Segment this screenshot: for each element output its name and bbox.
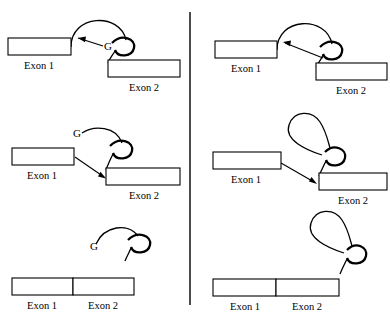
branch-loop-left-1 [112, 38, 134, 56]
attack-arrow-head-left-1 [78, 37, 86, 43]
attack-arrow-right-2 [281, 163, 314, 182]
exon2-label-left-3: Exon 2 [88, 300, 118, 311]
exon1-label-left-3: Exon 1 [27, 300, 57, 311]
branch-loop-left-2 [110, 141, 132, 159]
exon1-label-left-2: Exon 1 [27, 170, 57, 181]
exon2-label-right-3: Exon 2 [292, 301, 322, 312]
attack-arrow-right-1 [285, 43, 323, 58]
attack-arrow-head-left-2 [98, 172, 106, 179]
intron-tail-left-3 [125, 248, 131, 261]
exon2-box-left-1 [108, 60, 180, 77]
exon2-label-right-1: Exon 2 [336, 85, 366, 96]
branch-g-label-left-1: G [104, 40, 112, 52]
exon1-label-right-3: Exon 1 [230, 301, 260, 312]
intron-arch-left-1 [71, 21, 126, 47]
branch-g-label-left-3: G [90, 240, 98, 252]
exon2-box-right-3 [276, 279, 339, 296]
exon2-label-right-2: Exon 2 [338, 195, 368, 206]
splicing-figure: Exon 1 Exon 2 G Exon 1 Exon 2 G Exon 1 E… [0, 0, 390, 319]
exon2-label-left-1: Exon 2 [129, 82, 159, 93]
diagram-right-row-2: Exon 1 Exon 2 [213, 113, 387, 206]
diagram-right-row-1: Exon 1 Exon 2 [215, 24, 387, 96]
diagram-left-row-2: Exon 1 Exon 2 G [12, 127, 180, 201]
exon1-box-left-3 [12, 278, 73, 295]
exon1-box-right-1 [215, 41, 277, 58]
exon2-box-left-3 [73, 278, 134, 295]
exon2-box-right-2 [319, 173, 387, 190]
exon1-box-right-3 [213, 279, 276, 296]
attack-arrow-head-right-1 [283, 41, 291, 47]
exon1-label-left-1: Exon 1 [24, 60, 54, 71]
diagram-right-row-3: Exon 1 Exon 2 [213, 211, 366, 312]
intron-tail-right-3 [340, 259, 347, 274]
branch-g-label-left-2: G [73, 127, 81, 139]
exon2-box-left-2 [106, 168, 180, 185]
attack-arrow-head-right-2 [309, 177, 317, 184]
exon2-box-right-1 [316, 63, 387, 80]
intron-teardrop-right-3 [310, 211, 352, 253]
branch-loop-left-3 [128, 235, 150, 253]
exon1-label-right-1: Exon 1 [231, 63, 261, 74]
exon1-box-right-2 [213, 152, 281, 169]
branch-loop-right-1 [320, 42, 342, 60]
exon1-box-left-2 [12, 148, 74, 165]
intron-arch-right-1 [277, 24, 332, 50]
branch-loop-right-2 [325, 148, 345, 166]
diagram-left-row-3: Exon 1 Exon 2 G [12, 228, 150, 311]
intron-teardrop-right-2 [288, 113, 330, 155]
diagram-left-row-1: Exon 1 Exon 2 G [8, 21, 180, 93]
exon1-box-left-1 [8, 38, 71, 55]
branch-loop-right-3 [347, 246, 366, 264]
exon1-label-right-2: Exon 1 [231, 174, 261, 185]
exon2-label-left-2: Exon 2 [129, 190, 159, 201]
